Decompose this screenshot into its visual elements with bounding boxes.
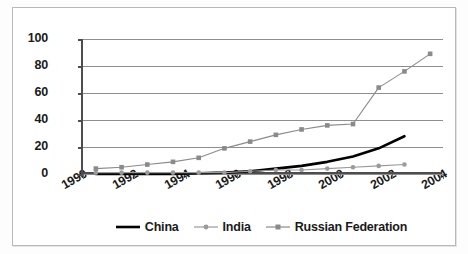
series-marker-india	[145, 170, 150, 175]
series-marker-india	[196, 170, 201, 175]
series-marker-india	[299, 168, 304, 173]
chart-figure: 100806040200 199019921994199619982000200…	[0, 0, 468, 254]
series-marker-russian-federation	[145, 162, 150, 167]
series-marker-india	[171, 170, 176, 175]
x-axis-tick	[443, 174, 444, 179]
legend-item-india[interactable]: India	[193, 220, 251, 234]
x-axis-tick	[237, 174, 238, 179]
series-marker-india	[402, 162, 407, 167]
series-marker-russian-federation	[248, 139, 253, 144]
legend-item-label: India	[223, 220, 251, 234]
chart-frame: 100806040200 199019921994199619982000200…	[12, 7, 456, 246]
y-axis-tick-label: 60	[2, 85, 48, 99]
series-marker-india	[376, 164, 381, 169]
legend-item-label: Russian Federation	[295, 220, 407, 234]
legend-item-china[interactable]: China	[115, 220, 179, 234]
y-axis-tick-label: 100	[2, 31, 48, 45]
series-line-russian-federation	[96, 54, 430, 169]
series-marker-russian-federation	[325, 123, 330, 128]
series-marker-india	[119, 170, 124, 175]
legend-item-label: China	[145, 220, 179, 234]
y-axis-tick-label: 40	[2, 112, 48, 126]
series-marker-russian-federation	[402, 69, 407, 74]
series-marker-india	[94, 170, 99, 175]
series-marker-russian-federation	[428, 52, 433, 57]
plot-area	[81, 39, 441, 174]
line-swatch-icon	[115, 222, 141, 232]
series-marker-russian-federation	[376, 85, 381, 90]
series-marker-india	[351, 165, 356, 170]
series-marker-russian-federation	[94, 166, 99, 171]
x-axis-tick	[392, 174, 393, 179]
line-marker-circle-swatch-icon	[193, 222, 219, 232]
legend-item-russian-federation[interactable]: Russian Federation	[265, 220, 407, 234]
y-axis-tick-label: 80	[2, 58, 48, 72]
series-marker-russian-federation	[196, 156, 201, 161]
y-axis-tick-label: 20	[2, 139, 48, 153]
line-marker-square-swatch-icon	[265, 222, 291, 232]
series-marker-russian-federation	[351, 122, 356, 127]
series-marker-russian-federation	[274, 133, 279, 138]
series-marker-russian-federation	[171, 160, 176, 165]
series-marker-russian-federation	[119, 165, 124, 170]
series-marker-russian-federation	[222, 146, 227, 151]
chart-legend: ChinaIndiaRussian Federation	[81, 216, 441, 238]
x-axis-tick	[289, 174, 290, 179]
x-axis-tick	[340, 174, 341, 179]
x-axis-tick	[83, 174, 84, 179]
y-axis-tick-label: 0	[2, 166, 48, 180]
series-marker-russian-federation	[299, 127, 304, 132]
series-marker-india	[325, 166, 330, 171]
series-marker-india	[222, 170, 227, 175]
series-marker-india	[274, 168, 279, 173]
series-group	[83, 39, 443, 174]
series-marker-india	[248, 169, 253, 174]
